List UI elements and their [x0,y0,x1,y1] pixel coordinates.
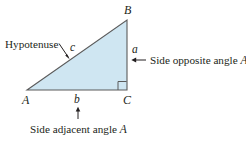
callout-opposite-angle: A [239,54,246,66]
callout-adjacent-plain: Side adjacent angle [30,123,120,135]
vertex-label-b: B [124,3,132,17]
vertex-label-c: C [123,93,132,107]
vertex-label-a: A [21,93,30,107]
side-label-c: c [70,41,75,53]
callout-adjacent-label: Side adjacent angle A [30,123,128,135]
triangle-shape [27,20,127,90]
callout-opposite-plain: Side opposite angle [150,54,240,66]
side-label-b: b [74,93,80,105]
callout-adjacent-angle: A [119,123,128,135]
callout-hypotenuse-label: Hypotenuse [5,38,58,50]
figure-canvas: B A C c a b Hypotenuse Side opposite ang… [0,0,246,144]
callout-opposite-label: Side opposite angle A [150,54,246,66]
side-label-a: a [132,43,138,55]
hypotenuse-leader-arrow [59,44,70,60]
adjacent-leader-arrow [76,107,81,119]
right-triangle-figure: B A C c a b Hypotenuse Side opposite ang… [0,0,246,144]
opposite-leader-arrow [131,58,146,63]
